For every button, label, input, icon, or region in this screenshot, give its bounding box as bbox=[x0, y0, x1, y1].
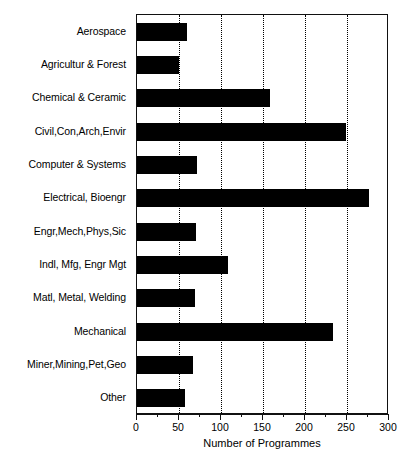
bar bbox=[137, 123, 346, 141]
x-tick-minor bbox=[367, 414, 368, 417]
x-tick-label: 50 bbox=[172, 421, 184, 433]
category-label: Agricultur & Forest bbox=[41, 58, 126, 70]
x-tick-minor bbox=[199, 414, 200, 417]
bar bbox=[137, 389, 185, 407]
x-tick-major bbox=[304, 414, 305, 420]
bar bbox=[137, 56, 179, 74]
category-label: Mechanical bbox=[74, 325, 126, 337]
category-label: Matl, Metal, Welding bbox=[33, 291, 126, 303]
x-tick-label: 300 bbox=[379, 421, 397, 433]
gridline bbox=[305, 15, 306, 413]
x-axis-title: Number of Programmes bbox=[136, 437, 388, 449]
x-tick-major bbox=[178, 414, 179, 420]
bar bbox=[137, 289, 195, 307]
bar bbox=[137, 323, 333, 341]
x-tick-label: 150 bbox=[253, 421, 271, 433]
x-tick-minor bbox=[241, 414, 242, 417]
category-label: Aerospace bbox=[77, 25, 126, 37]
x-tick-minor bbox=[325, 414, 326, 417]
x-tick-label: 0 bbox=[133, 421, 139, 433]
category-axis-labels: AerospaceAgricultur & ForestChemical & C… bbox=[0, 14, 131, 414]
category-label: Engr,Mech,Phys,Sic bbox=[34, 225, 126, 237]
plot-area bbox=[136, 14, 388, 414]
x-tick-major bbox=[220, 414, 221, 420]
category-label: Electrical, Bioengr bbox=[43, 191, 126, 203]
category-label: Civil,Con,Arch,Envir bbox=[35, 125, 126, 137]
bar-chart: AerospaceAgricultur & ForestChemical & C… bbox=[0, 0, 406, 457]
x-tick-major bbox=[388, 414, 389, 420]
x-tick-label: 100 bbox=[211, 421, 229, 433]
bar bbox=[137, 223, 196, 241]
category-label: Other bbox=[100, 391, 126, 403]
x-tick-major bbox=[136, 414, 137, 420]
gridline bbox=[221, 15, 222, 413]
x-tick-label: 250 bbox=[337, 421, 355, 433]
gridline bbox=[263, 15, 264, 413]
category-label: Indl, Mfg, Engr Mgt bbox=[39, 258, 126, 270]
x-tick-minor bbox=[283, 414, 284, 417]
gridline bbox=[347, 15, 348, 413]
bar bbox=[137, 23, 187, 41]
gridline bbox=[179, 15, 180, 413]
category-label: Chemical & Ceramic bbox=[32, 91, 126, 103]
x-tick-major bbox=[262, 414, 263, 420]
bar bbox=[137, 189, 369, 207]
category-label: Computer & Systems bbox=[29, 158, 126, 170]
category-label: Miner,Mining,Pet,Geo bbox=[27, 358, 126, 370]
x-tick-label: 200 bbox=[295, 421, 313, 433]
bar bbox=[137, 156, 197, 174]
x-tick-minor bbox=[157, 414, 158, 417]
bar bbox=[137, 356, 193, 374]
bar bbox=[137, 89, 270, 107]
bar bbox=[137, 256, 228, 274]
x-tick-major bbox=[346, 414, 347, 420]
